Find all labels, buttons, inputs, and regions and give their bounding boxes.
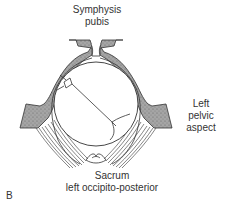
symphysis-pubis	[91, 44, 101, 56]
symphysis-line1: Symphysis	[62, 4, 132, 16]
sacrum-line2: left occipito-posterior	[52, 182, 172, 194]
fetal-head	[54, 62, 138, 146]
sacrum-label: Sacrum left occipito-posterior	[52, 170, 172, 194]
sacrum	[86, 154, 106, 163]
panel-letter: B	[6, 190, 13, 202]
left-pelvic-aspect-label: Left pelvic aspect	[178, 98, 224, 134]
symphysis-line2: pubis	[62, 16, 132, 28]
sacrum-line1: Sacrum	[52, 170, 172, 182]
symphysis-pubis-label: Symphysis pubis	[62, 4, 132, 28]
left-line3: aspect	[178, 122, 224, 134]
left-line1: Left	[178, 98, 224, 110]
left-line2: pelvic	[178, 110, 224, 122]
